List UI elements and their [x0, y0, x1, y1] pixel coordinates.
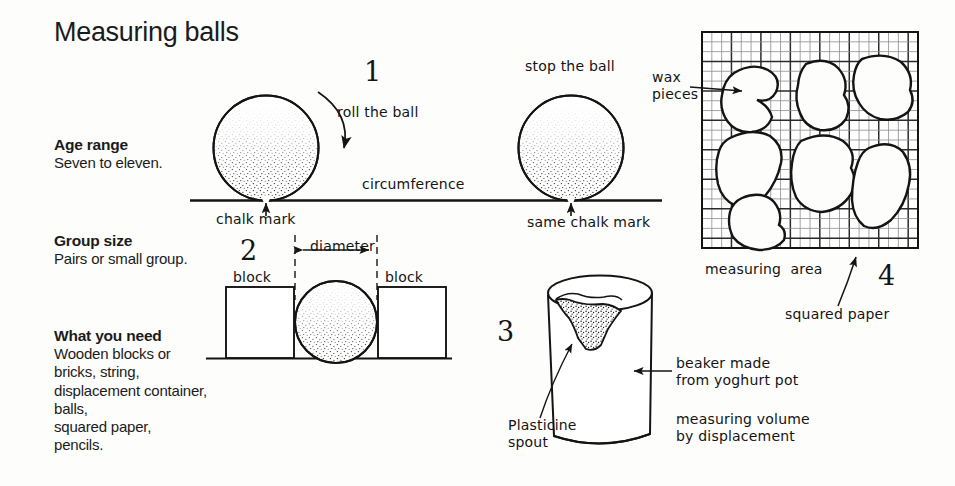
stop-the-ball-label: stop the ball	[525, 58, 615, 75]
measuring-volume-label: measuring volume by displacement	[676, 411, 810, 444]
wax-piece-1	[721, 67, 778, 132]
block-right	[378, 287, 446, 358]
beaker-made-label: beaker made from yoghurt pot	[676, 355, 798, 388]
worksheet-page: Measuring balls Age range Seven to eleve…	[0, 0, 955, 486]
diameter-label: diameter	[310, 238, 375, 255]
section-body-age-range: Seven to eleven.	[54, 154, 163, 172]
page-title: Measuring balls	[54, 16, 239, 49]
plasticine-spout-label: Plasticine spout	[508, 417, 577, 450]
squared-paper-leader	[838, 257, 856, 306]
step-number-3: 3	[497, 318, 514, 345]
step1-illustration	[190, 92, 662, 216]
step-number-2: 2	[240, 237, 257, 264]
section-heading-age-range: Age range	[54, 136, 128, 155]
section-heading-what-you-need: What you need	[54, 327, 162, 346]
block-left	[226, 287, 294, 358]
wax-pieces-label: wax pieces	[652, 69, 698, 102]
section-body-what-you-need: Wooden blocks or bricks, string, displac…	[54, 345, 207, 455]
ball-left	[214, 96, 319, 203]
ball-between-blocks	[295, 281, 377, 363]
same-chalk-mark-label: same chalk mark	[527, 214, 650, 231]
wax-piece-5	[791, 136, 854, 213]
chalk-mark-label: chalk mark	[216, 211, 296, 228]
wax-piece-2	[796, 61, 848, 130]
block-left-label: block	[233, 269, 271, 286]
step-number-4: 4	[878, 262, 895, 289]
circumference-label: circumference	[362, 176, 465, 193]
section-heading-group-size: Group size	[54, 232, 132, 251]
ball-right	[519, 96, 624, 203]
section-body-group-size: Pairs or small group.	[54, 250, 187, 268]
squared-paper-label: squared paper	[785, 306, 889, 323]
block-right-label: block	[385, 269, 423, 286]
roll-the-ball-label: roll the ball	[337, 104, 419, 121]
step-number-1: 1	[364, 58, 381, 85]
measuring-area-label: measuring area	[705, 261, 823, 278]
